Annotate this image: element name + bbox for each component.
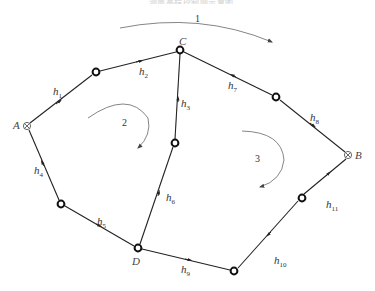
edge-label-h1: h1 <box>53 86 62 100</box>
point-label-B: B <box>355 150 362 161</box>
node-1 <box>93 69 100 76</box>
nodes <box>58 47 306 275</box>
edge-label-h10: h10 <box>274 255 287 269</box>
loop-3-arrow <box>242 131 284 187</box>
loop-label-3: 3 <box>255 154 260 164</box>
node-3 <box>172 140 179 147</box>
node-4 <box>58 201 65 208</box>
node-D <box>135 245 142 252</box>
loop-1-arrow <box>120 22 272 42</box>
edge-h3 <box>175 54 180 139</box>
node-9 <box>231 268 238 275</box>
node-C <box>177 47 184 54</box>
benchmark-A-icon <box>23 122 30 129</box>
benchmark-B-icon <box>344 151 351 158</box>
edge-label-h2: h2 <box>139 66 148 80</box>
edge-label-h3: h3 <box>181 98 190 112</box>
loop-2-arrow <box>88 104 149 148</box>
edge-label-h4: h4 <box>34 165 43 179</box>
edge-label-h11: h11 <box>326 199 338 213</box>
node-7 <box>273 94 280 101</box>
edge-direction-arrows <box>42 61 329 260</box>
loop-label-1: 1 <box>195 14 200 24</box>
point-label-A: A <box>13 120 20 131</box>
edge-label-h7: h7 <box>228 80 237 94</box>
edge-label-h5: h5 <box>97 216 106 230</box>
loop-label-2: 2 <box>122 118 127 128</box>
edges <box>29 52 346 270</box>
node-10 <box>299 195 306 202</box>
point-label-C: C <box>179 36 186 47</box>
point-label-D: D <box>132 256 140 267</box>
edge-label-h9: h9 <box>181 264 190 278</box>
leveling-network-diagram <box>0 0 375 291</box>
edge-label-h8: h8 <box>310 112 319 126</box>
edge-h11 <box>304 159 346 194</box>
edge-label-h6: h6 <box>166 192 175 206</box>
